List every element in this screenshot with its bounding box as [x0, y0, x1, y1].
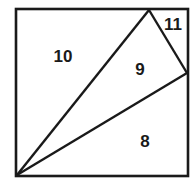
line-bottom-left-to-right-point — [17, 73, 187, 175]
region-label-10: 10 — [54, 47, 73, 66]
region-label-9: 9 — [135, 60, 144, 79]
figure-canvas: 10 9 11 8 — [0, 0, 193, 187]
region-label-8: 8 — [140, 132, 149, 151]
region-label-11: 11 — [164, 15, 182, 34]
geometry-figure: 10 9 11 8 — [0, 0, 193, 187]
line-bottom-left-to-top-point — [17, 10, 149, 175]
